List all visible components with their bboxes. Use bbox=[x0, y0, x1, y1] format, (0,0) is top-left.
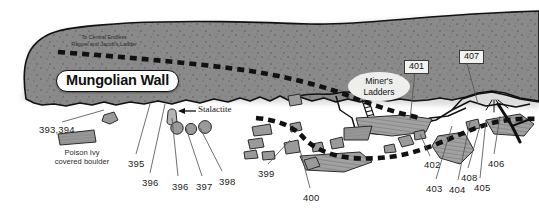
route-note: To Central Endless Rappel and Jacob's La… bbox=[58, 34, 150, 48]
stalactite-label: Stalactite bbox=[198, 104, 232, 114]
station-number-396: 396 bbox=[142, 177, 158, 188]
route-note-line-1: To Central Endless bbox=[58, 34, 150, 41]
station-number-405: 405 bbox=[474, 182, 490, 193]
route-note-line-2: Rappel and Jacob's Ladder bbox=[58, 41, 150, 48]
station-number-398: 398 bbox=[219, 176, 235, 187]
miners-ladders-line-1: Miner's bbox=[355, 76, 403, 87]
poison-ivy-caption: Poison Ivy covered boulder bbox=[40, 148, 124, 167]
station-number-403: 403 bbox=[426, 183, 442, 194]
boxed-number-401: 401 bbox=[404, 60, 429, 74]
station-number-406: 406 bbox=[488, 158, 504, 169]
poison-ivy-line-1: Poison Ivy bbox=[40, 148, 124, 157]
station-number-404: 404 bbox=[449, 184, 465, 195]
mungolian-wall-label: Mungolian Wall bbox=[56, 70, 179, 92]
miners-ladders-line-2: Ladders bbox=[355, 87, 403, 98]
station-number-408: 408 bbox=[461, 172, 477, 183]
station-number-395: 395 bbox=[128, 158, 144, 169]
station-number-400: 400 bbox=[303, 192, 319, 203]
stalactite-arrow bbox=[178, 108, 196, 114]
map-artwork bbox=[0, 0, 539, 211]
cave-survey-map: To Central Endless Rappel and Jacob's La… bbox=[0, 0, 539, 211]
station-number-397: 397 bbox=[196, 181, 212, 192]
station-number-399: 399 bbox=[258, 168, 274, 179]
miners-ladders-label: Miner's Ladders bbox=[348, 72, 410, 101]
poison-ivy-line-2: covered boulder bbox=[40, 157, 124, 166]
station-number-396: 396 bbox=[172, 181, 188, 192]
boxed-number-407: 407 bbox=[459, 50, 484, 64]
station-number-393-394: 393,394 bbox=[39, 124, 75, 135]
station-number-402: 402 bbox=[424, 159, 440, 170]
